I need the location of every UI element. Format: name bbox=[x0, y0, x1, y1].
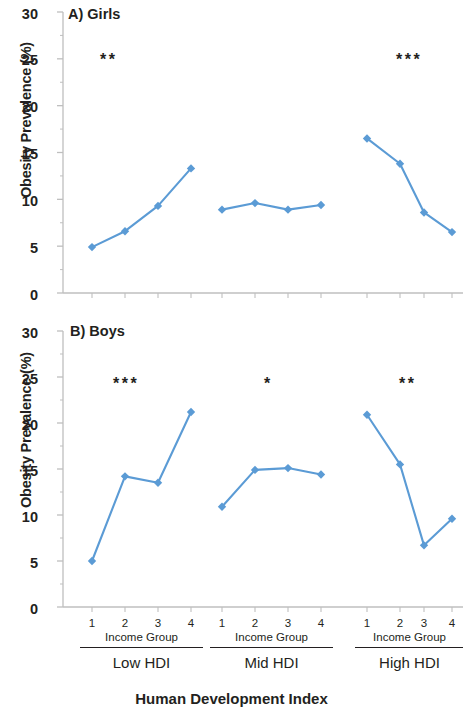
significance-boys-high: ** bbox=[399, 376, 416, 392]
significance-boys-mid: * bbox=[264, 376, 273, 392]
x-axis-title: Human Development Index bbox=[0, 690, 463, 707]
x-tick-low-hdi-3: 3 bbox=[151, 618, 165, 630]
income-group-label-3: Income Group bbox=[350, 632, 463, 644]
significance-boys-low: *** bbox=[113, 376, 139, 392]
income-group-label-1: Income Group bbox=[82, 632, 202, 644]
data-point-marker bbox=[218, 205, 226, 213]
data-point-marker bbox=[284, 205, 292, 213]
hdi-label-low-hdi: Low HDI bbox=[72, 655, 212, 670]
data-point-marker bbox=[317, 470, 325, 478]
x-tick-low-hdi-1: 1 bbox=[85, 618, 99, 630]
income-group-label-2: Income Group bbox=[212, 632, 332, 644]
significance-girls-low: ** bbox=[100, 52, 117, 68]
data-point-marker bbox=[88, 243, 96, 251]
x-tick-mid-hdi-2: 2 bbox=[248, 618, 262, 630]
x-tick-mid-hdi-4: 4 bbox=[314, 618, 328, 630]
data-point-marker bbox=[88, 557, 96, 565]
hdi-label-mid-hdi: Mid HDI bbox=[202, 655, 342, 670]
x-tick-low-hdi-2: 2 bbox=[118, 618, 132, 630]
panel-title-girls: A) Girls bbox=[68, 6, 120, 22]
x-tick-high-hdi-1: 1 bbox=[360, 618, 374, 630]
x-tick-mid-hdi-3: 3 bbox=[281, 618, 295, 630]
x-tick-high-hdi-2: 2 bbox=[393, 618, 407, 630]
hdi-label-high-hdi: High HDI bbox=[340, 655, 463, 670]
x-tick-mid-hdi-1: 1 bbox=[215, 618, 229, 630]
plot-area-boys bbox=[0, 318, 463, 618]
group-divider-rule-1 bbox=[80, 647, 203, 648]
data-point-marker bbox=[317, 201, 325, 209]
plot-area-girls bbox=[0, 0, 463, 312]
panel-title-boys: B) Boys bbox=[70, 323, 125, 339]
x-tick-low-hdi-4: 4 bbox=[184, 618, 198, 630]
panel-boys: Obesity Prevalence (%) 30 25 20 15 10 5 … bbox=[0, 318, 463, 618]
x-tick-high-hdi-3: 3 bbox=[417, 618, 431, 630]
group-divider-rule-2 bbox=[210, 647, 333, 648]
panel-girls: Obesity Prevalence (%) 30 25 20 15 10 5 … bbox=[0, 0, 463, 312]
data-point-marker bbox=[154, 479, 162, 487]
figure-obesity-prevalence-by-hdi: Obesity Prevalence (%) 30 25 20 15 10 5 … bbox=[0, 0, 463, 717]
data-point-marker bbox=[187, 408, 195, 416]
data-point-marker bbox=[121, 472, 129, 480]
data-point-marker bbox=[284, 464, 292, 472]
x-tick-high-hdi-4: 4 bbox=[445, 618, 459, 630]
significance-girls-high: *** bbox=[396, 52, 422, 68]
data-point-marker bbox=[251, 199, 259, 207]
group-divider-rule-3 bbox=[355, 647, 463, 648]
